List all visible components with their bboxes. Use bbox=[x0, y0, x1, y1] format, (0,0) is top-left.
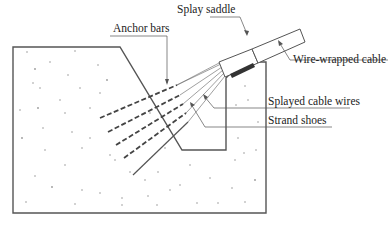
anchorage-diagram bbox=[0, 0, 392, 225]
anchor-bar-lowest bbox=[133, 122, 188, 175]
anchor-bars bbox=[100, 85, 186, 158]
label-wire-wrapped-cable: Wire-wrapped cable bbox=[293, 54, 386, 66]
label-splayed-cable-wires: Splayed cable wires bbox=[268, 96, 360, 108]
splayed-cable-wires bbox=[177, 62, 225, 122]
splay-saddle bbox=[219, 49, 258, 78]
concrete-aggregate-texture bbox=[19, 50, 259, 206]
label-anchor-bars: Anchor bars bbox=[113, 23, 170, 35]
label-strand-shoes: Strand shoes bbox=[268, 115, 326, 127]
label-splay-saddle: Splay saddle bbox=[177, 4, 235, 16]
